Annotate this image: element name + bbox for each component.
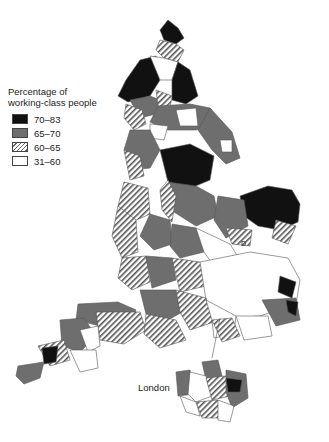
region-cornwall-dark — [16, 362, 44, 384]
legend-item-70-83: 70–83 — [12, 112, 97, 126]
region-somerset-hatch — [96, 312, 146, 344]
legend-item-65-70: 65–70 — [12, 126, 97, 140]
legend-swatch-white — [12, 156, 28, 166]
map-marker-d: D — [241, 240, 246, 247]
region-north-tip — [160, 20, 184, 44]
region-cambs-hatch — [226, 228, 252, 246]
region-plymouth-white — [70, 350, 98, 372]
legend-item-31-60: 31–60 — [12, 154, 97, 168]
london-inset-label: London — [138, 382, 170, 393]
region-yorkshire-white1 — [176, 108, 198, 126]
region-hull-white — [220, 140, 232, 152]
region-lincs-black — [240, 186, 300, 230]
region-sussex-white — [236, 316, 272, 340]
legend-swatch-gray — [12, 128, 28, 138]
region-cornwall-black — [42, 346, 58, 364]
legend-item-60-65: 60–65 — [12, 140, 97, 154]
london-east-black — [226, 378, 242, 392]
legend-swatch-hatch — [12, 142, 28, 152]
map-legend: Percentage of working-class people 70–83… — [8, 86, 97, 168]
region-worcs-dark — [146, 256, 176, 288]
region-northeast — [172, 62, 198, 104]
region-dorset-hatch — [144, 314, 186, 348]
region-staffs-dark — [140, 214, 172, 250]
region-heref-hatch — [118, 256, 150, 290]
england-choropleth-map — [0, 0, 329, 442]
region-mid-dark — [168, 182, 218, 226]
legend-swatch-black — [12, 114, 28, 124]
legend-title: Percentage of working-class people — [8, 86, 97, 108]
